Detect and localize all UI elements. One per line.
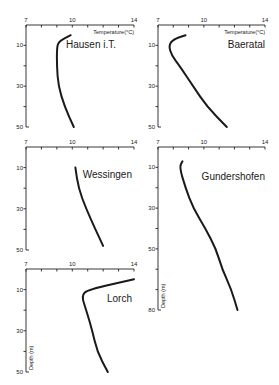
x-tick-label: 14 [131,139,138,145]
temperature-axis-label: Temperature(°C) [93,29,134,35]
x-tick-label: 10 [201,17,208,23]
panel-title: Lorch [107,293,132,304]
y-tick-label: 50 [148,246,155,252]
axis-lines [26,147,134,250]
y-tick-label: 50 [148,124,155,130]
panel-title: Wessingen [83,169,132,180]
y-tick-label: 50 [16,369,23,375]
panel-wessingen: 71014103050Wessingen [16,139,138,253]
y-tick-label: 30 [16,206,23,212]
panel-title: Gundershofen [202,171,265,182]
x-tick-label: 10 [201,139,208,145]
temperature-axis-label: Temperature(°C) [224,29,265,35]
y-tick-label: 10 [148,164,155,170]
x-tick-label: 14 [262,17,269,23]
y-tick-label: 50 [16,247,23,253]
y-tick-label: 30 [16,83,23,89]
x-tick-label: 10 [69,139,76,145]
y-tick-label: 30 [148,205,155,211]
x-tick-label: 7 [24,261,28,267]
y-tick-label: 80 [148,307,155,313]
x-tick-label: 7 [24,139,28,145]
panel-title: Hausen i.T. [66,39,116,50]
panel-baeratal: 71014103050Temperature(°C)Baeratal [148,17,269,130]
x-tick-label: 10 [69,17,76,23]
y-tick-label: 10 [16,165,23,171]
depth-axis-label: Depth (m) [160,283,166,308]
temperature-profile-line [180,161,237,310]
x-tick-label: 10 [69,261,76,267]
temperature-depth-profiles: 71014103050Temperature(°C)Hausen i.T.710… [0,0,279,385]
temperature-profile-line [170,35,227,127]
panel-gundershofen: 7101410305080Depth (m)Gundershofen [148,139,269,313]
x-tick-label: 14 [131,17,138,23]
x-tick-label: 7 [156,139,160,145]
x-tick-label: 14 [262,139,269,145]
y-tick-label: 30 [148,83,155,89]
x-tick-label: 7 [24,17,28,23]
panel-lorch: 71014103050Depth (m)Lorch [16,261,138,375]
x-tick-label: 7 [156,17,160,23]
y-tick-label: 10 [16,42,23,48]
y-tick-label: 10 [148,42,155,48]
y-tick-label: 10 [16,287,23,293]
panel-title: Baeratal [228,39,265,50]
x-tick-label: 14 [131,261,138,267]
y-tick-label: 50 [16,124,23,130]
depth-axis-label: Depth (m) [28,345,34,370]
axis-lines [26,269,134,372]
y-tick-label: 30 [16,328,23,334]
panel-hausen-i-t: 71014103050Temperature(°C)Hausen i.T. [16,17,138,130]
